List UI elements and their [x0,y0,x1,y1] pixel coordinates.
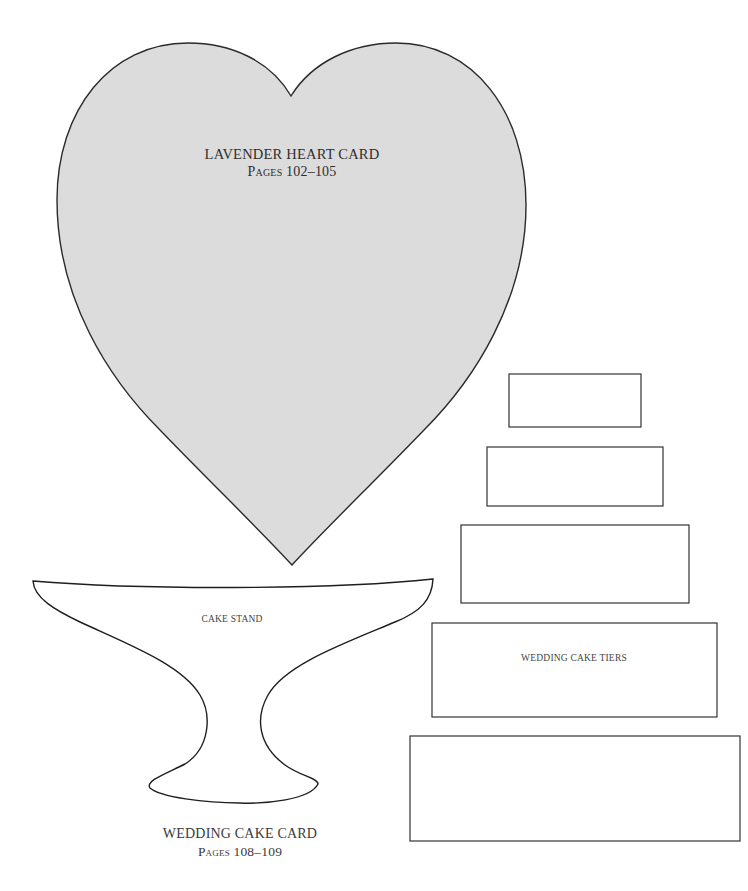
template-page: LAVENDER HEART CARD Pages 102–105 CAKE S… [0,0,748,891]
cake-stand-template-shape [33,579,433,803]
cake-stand-label: CAKE STAND [182,614,282,624]
heart-card-pages: Pages 102–105 [192,164,392,180]
cake-tier-2 [487,447,663,506]
cake-tiers-label: WEDDING CAKE TIERS [503,653,645,663]
wedding-cake-card-pages: Pages 108–109 [140,844,340,860]
cake-tier-4 [432,623,717,717]
template-artwork [0,0,748,891]
cake-tier-5 [410,736,740,841]
cake-tier-3 [461,525,689,603]
heart-card-title: LAVENDER HEART CARD [192,146,392,163]
cake-tier-1 [509,374,641,427]
cake-tiers-group [410,374,740,841]
heart-template-shape [57,43,526,565]
wedding-cake-card-title: WEDDING CAKE CARD [140,826,340,842]
